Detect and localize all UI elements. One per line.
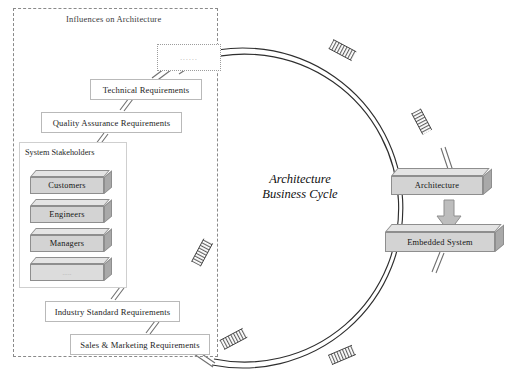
embedded-system-label: Embedded System <box>385 232 495 252</box>
stakeholder-box-managers[interactable]: Managers <box>30 228 112 252</box>
architecture-label: Architecture <box>391 176 483 195</box>
stakeholder-label: Engineers <box>30 206 104 223</box>
box-top-face <box>385 224 502 232</box>
stakeholder-box-ellipsis[interactable]: ..... <box>30 257 112 281</box>
system-stakeholders-title: System Stakeholders <box>25 148 94 157</box>
influences-panel-title: Influences on Architecture <box>66 14 161 24</box>
caption-line-1: Architecture <box>236 172 364 187</box>
stakeholder-box-engineers[interactable]: Engineers <box>30 199 112 223</box>
influence-box-sales-marketing-requirements[interactable]: Sales & Marketing Requirements <box>70 334 210 355</box>
stakeholder-label: Customers <box>30 177 104 194</box>
business-cycle-caption: Architecture Business Cycle <box>236 172 364 202</box>
box-top-face <box>30 257 110 264</box>
box-top-face <box>30 199 110 206</box>
box-top-face <box>30 170 110 177</box>
stakeholder-label: Managers <box>30 235 104 252</box>
influence-box-industry-standard-requirements[interactable]: Industry Standard Requirements <box>45 301 180 322</box>
influence-box-technical-requirements[interactable]: Technical Requirements <box>90 79 202 100</box>
diagram-canvas: Influences on Architecture ...... Techni… <box>0 0 526 383</box>
box-top-face <box>30 228 110 235</box>
influence-box-quality-assurance-requirements[interactable]: Quality Assurance Requirements <box>41 112 182 133</box>
caption-line-2: Business Cycle <box>236 187 364 202</box>
embedded-system-box[interactable]: Embedded System <box>385 224 504 252</box>
influence-box-ellipsis[interactable]: ...... <box>157 44 221 71</box>
stakeholder-label: ..... <box>30 264 104 281</box>
stakeholder-box-customers[interactable]: Customers <box>30 170 112 194</box>
architecture-box[interactable]: Architecture <box>391 168 492 195</box>
box-top-face <box>391 168 490 176</box>
